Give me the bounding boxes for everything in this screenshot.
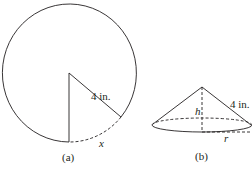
figure-b: h 4 in. r (b) (152, 87, 252, 163)
radius-label: 4 in. (91, 90, 111, 102)
radius-label-r: r (224, 132, 229, 144)
caption-b: (b) (195, 150, 208, 163)
figure-canvas: 4 in. x (a) h 4 in. r (b) (0, 0, 252, 170)
caption-a: (a) (62, 151, 75, 164)
arc-label-x: x (98, 137, 104, 149)
removed-sector-arc (69, 117, 121, 142)
figure-a: 4 in. x (a) (2, 4, 136, 164)
height-label-h: h (195, 105, 201, 117)
slant-label: 4 in. (230, 98, 250, 110)
